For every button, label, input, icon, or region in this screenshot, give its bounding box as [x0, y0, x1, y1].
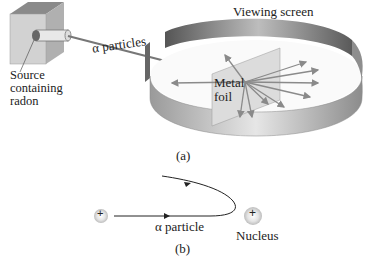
source-label-line3: radon: [10, 95, 63, 108]
source-label: Source containing radon: [10, 69, 63, 108]
metal-foil-label-line2: foil: [214, 90, 244, 104]
caption-b: (b): [175, 242, 190, 256]
alpha-charge-sign: +: [97, 208, 103, 220]
metal-foil-label: Metal foil: [214, 76, 244, 103]
alpha-particle-label: α particle: [155, 220, 204, 234]
metal-foil-label-line1: Metal: [214, 76, 244, 90]
radon-source-box: [10, 2, 71, 72]
nucleus-charge-sign: +: [249, 207, 256, 220]
alpha-trajectory: [114, 176, 235, 219]
nucleus-label: Nucleus: [236, 229, 279, 243]
caption-a: (a): [176, 149, 190, 163]
viewing-screen-label: Viewing screen: [233, 5, 313, 19]
